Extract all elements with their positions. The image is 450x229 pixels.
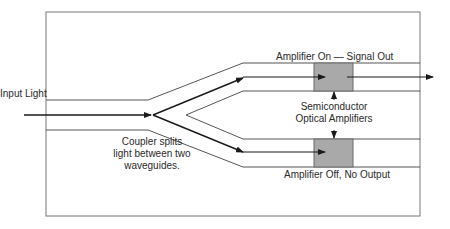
amplifier-on-label: Amplifier On — Signal Out [276, 51, 393, 63]
input-light-label: Input Light [0, 88, 47, 100]
coupler-label-line1: Coupler splits [102, 136, 202, 148]
soa-label-line1: Semiconductor [298, 101, 370, 113]
coupler-label-line2: light between two [102, 148, 202, 160]
lower-amplifier [314, 139, 353, 167]
coupler-label-line3: waveguides. [102, 160, 202, 172]
soa-label-line2: Optical Amplifiers [288, 113, 380, 125]
switch-diagram [0, 0, 450, 229]
amplifier-off-label: Amplifier Off, No Output [284, 169, 390, 181]
